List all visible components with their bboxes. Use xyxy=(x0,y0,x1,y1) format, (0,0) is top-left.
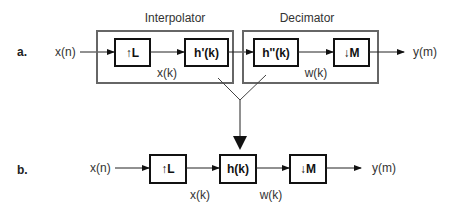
b-signal-xk-label: x(k) xyxy=(190,188,210,202)
decimation-filter-label: h''(k) xyxy=(262,46,290,60)
combine-down-arrowhead-icon xyxy=(233,136,247,150)
b-downsampler-label: ↓M xyxy=(300,162,316,176)
part-a-label: a. xyxy=(17,45,27,59)
interpolator-signal-label: x(k) xyxy=(157,66,177,80)
part-b: b. x(n) ↑L x(k) h(k) w(k) ↓M y(m) xyxy=(17,155,396,202)
b-combined-filter-label: h(k) xyxy=(227,162,249,176)
decimator-signal-label: w(k) xyxy=(304,66,328,80)
downsampler-label: ↓M xyxy=(344,46,360,60)
part-b-label: b. xyxy=(17,163,28,177)
interpolator-title: Interpolator xyxy=(145,11,206,25)
part-a-input-label: x(n) xyxy=(55,45,76,59)
b-upsampler-label: ↑L xyxy=(161,162,174,176)
funnel-left-line xyxy=(218,78,240,100)
decimator-title: Decimator xyxy=(280,11,335,25)
block-diagram: a. x(n) Interpolator ↑L x(k) h'(k) Decim… xyxy=(0,0,450,212)
part-b-input-label: x(n) xyxy=(90,161,111,175)
combine-funnel xyxy=(218,75,266,150)
part-b-output-label: y(m) xyxy=(372,161,396,175)
decimator-group: Decimator h''(k) w(k) ↓M xyxy=(243,11,378,83)
b-signal-wk-label: w(k) xyxy=(259,188,283,202)
part-a: a. x(n) Interpolator ↑L x(k) h'(k) Decim… xyxy=(17,11,437,83)
upsampler-label: ↑L xyxy=(126,46,139,60)
part-a-output-label: y(m) xyxy=(413,45,437,59)
interpolation-filter-label: h'(k) xyxy=(194,46,219,60)
interpolator-group: Interpolator ↑L x(k) h'(k) xyxy=(97,11,233,83)
